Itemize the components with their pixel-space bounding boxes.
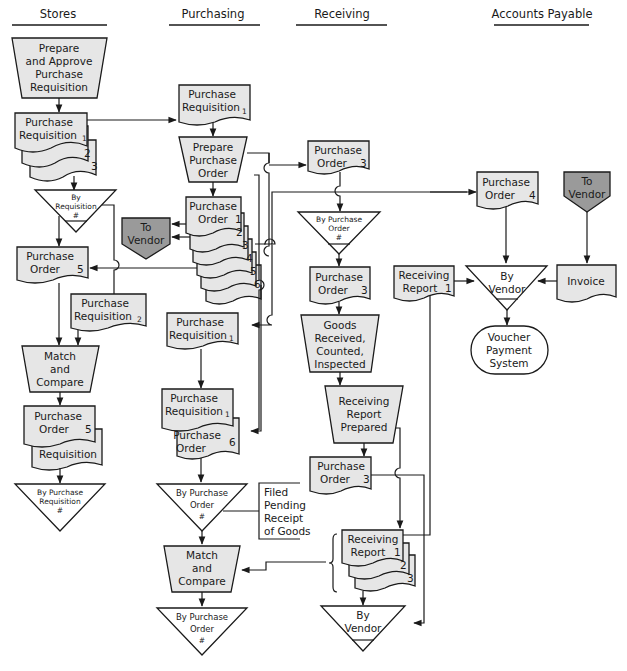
- document-purchase-requisition-1-top: Purchase Requisition 1: [179, 85, 250, 125]
- svg-text:System: System: [489, 357, 528, 369]
- svg-text:5: 5: [77, 263, 84, 275]
- file-by-purchase-order-pending: By Purchase Order #: [157, 484, 247, 531]
- svg-text:2: 2: [236, 226, 243, 238]
- process-goods-received-inspected: Goods Received, Counted, Inspected: [301, 315, 379, 372]
- document-purchase-order-4: Purchase Order 4: [477, 172, 538, 209]
- svg-text:Requisition: Requisition: [55, 202, 97, 211]
- svg-text:Vendor: Vendor: [128, 234, 166, 246]
- svg-text:Requisition: Requisition: [74, 310, 132, 322]
- svg-text:Order: Order: [485, 189, 516, 201]
- column-header-accounts-payable: Accounts Payable: [492, 7, 593, 25]
- svg-text:Requisition: Requisition: [165, 405, 223, 417]
- document-purchase-order-3-low: Purchase Order 3: [310, 457, 371, 494]
- svg-text:#: #: [199, 636, 205, 645]
- svg-text:#: #: [57, 506, 63, 515]
- svg-text:Goods: Goods: [323, 319, 356, 331]
- svg-text:Receiving: Receiving: [314, 7, 370, 21]
- svg-text:Match: Match: [44, 350, 76, 362]
- svg-text:Purchase: Purchase: [81, 297, 129, 309]
- annotation-filed-pending-receipt: Filed Pending Receipt of Goods: [259, 483, 311, 539]
- svg-text:To: To: [580, 175, 592, 187]
- svg-text:5: 5: [85, 423, 92, 435]
- svg-text:Requisition: Requisition: [19, 129, 77, 141]
- svg-text:5: 5: [250, 265, 257, 277]
- svg-text:Received,: Received,: [314, 332, 365, 344]
- svg-text:Purchase: Purchase: [35, 68, 83, 80]
- svg-text:Pending: Pending: [264, 499, 306, 511]
- svg-text:Prepare: Prepare: [39, 42, 79, 54]
- svg-text:1: 1: [225, 410, 230, 419]
- svg-text:By: By: [500, 270, 513, 282]
- svg-text:Inspected: Inspected: [314, 358, 365, 370]
- svg-text:Purchase: Purchase: [170, 392, 218, 404]
- svg-text:Purchase: Purchase: [34, 410, 82, 422]
- svg-text:1: 1: [235, 213, 242, 225]
- svg-text:Purchase: Purchase: [482, 176, 530, 188]
- svg-text:Purchase: Purchase: [26, 250, 74, 262]
- document-receiving-report-1-ap: Receiving Report 1: [394, 266, 454, 301]
- document-purchase-requisition-2: Purchase Requisition 2: [71, 294, 146, 331]
- svg-text:Order: Order: [318, 284, 349, 296]
- svg-text:Order: Order: [176, 442, 207, 454]
- svg-text:3: 3: [363, 473, 370, 485]
- svg-text:#: #: [199, 512, 205, 521]
- svg-text:Order: Order: [190, 500, 215, 510]
- svg-text:6: 6: [229, 436, 236, 448]
- svg-text:Vendor: Vendor: [345, 622, 383, 634]
- svg-text:4: 4: [529, 189, 536, 201]
- svg-text:and Approve: and Approve: [26, 55, 93, 67]
- document-purchase-requisition-1-2-3: Purchase Requisition 1 2 3: [15, 113, 98, 181]
- svg-text:1: 1: [229, 334, 234, 343]
- svg-text:3: 3: [242, 239, 249, 251]
- document-flowchart: Stores Purchasing Receiving Accounts Pay…: [0, 0, 627, 671]
- svg-text:Purchase: Purchase: [188, 88, 236, 100]
- process-match-compare-purchasing: Match and Compare: [164, 546, 240, 592]
- svg-text:Vendor: Vendor: [569, 188, 607, 200]
- svg-text:Requisition: Requisition: [39, 497, 81, 506]
- document-invoice: Invoice: [557, 265, 616, 302]
- file-by-purchase-order-receiving: By Purchase Order #: [298, 212, 380, 254]
- svg-text:Stores: Stores: [40, 7, 76, 21]
- svg-text:By Purchase: By Purchase: [37, 488, 83, 497]
- terminal-voucher-payment-system: Voucher Payment System: [471, 326, 548, 374]
- svg-text:of Goods: of Goods: [264, 525, 311, 537]
- svg-text:Order: Order: [317, 157, 348, 169]
- svg-text:1: 1: [394, 546, 401, 558]
- svg-text:Prepared: Prepared: [340, 421, 387, 433]
- file-by-purchase-order-final: By Purchase Order #: [157, 608, 247, 655]
- svg-text:Compare: Compare: [36, 376, 84, 388]
- svg-text:Purchase: Purchase: [25, 116, 73, 128]
- svg-text:2: 2: [400, 559, 407, 571]
- document-po5-requisition: Purchase Order 5 Requisition: [24, 406, 102, 470]
- svg-text:Requisition: Requisition: [39, 448, 97, 460]
- svg-text:By Purchase: By Purchase: [316, 215, 362, 224]
- svg-text:By: By: [71, 193, 81, 202]
- svg-text:Prepare: Prepare: [193, 141, 233, 153]
- process-prepare-purchase-order: Prepare Purchase Order: [179, 137, 247, 182]
- svg-text:By Purchase: By Purchase: [176, 612, 228, 622]
- svg-text:Purchase: Purchase: [317, 460, 365, 472]
- offpage-to-vendor-purchasing: To Vendor: [122, 218, 170, 259]
- svg-text:#: #: [73, 211, 79, 220]
- svg-text:Order: Order: [30, 263, 61, 275]
- svg-text:Order: Order: [328, 224, 350, 233]
- svg-text:Requisition: Requisition: [182, 101, 240, 113]
- document-receiving-report-stack: Receiving Report 1 2 3: [342, 530, 415, 591]
- offpage-to-vendor-ap: To Vendor: [564, 172, 610, 212]
- document-purchase-order-stack-1-6: Purchase Order 1 2 3 4 5 6: [186, 197, 261, 304]
- svg-text:Payment: Payment: [486, 344, 532, 356]
- svg-text:Vendor: Vendor: [489, 283, 527, 295]
- svg-text:Compare: Compare: [178, 575, 226, 587]
- svg-text:Report: Report: [351, 546, 386, 558]
- svg-text:Order: Order: [198, 213, 229, 225]
- svg-text:Invoice: Invoice: [567, 275, 605, 287]
- svg-text:By Purchase: By Purchase: [176, 488, 228, 498]
- process-prepare-approve-requisition: Prepare and Approve Purchase Requisition: [12, 38, 107, 98]
- column-header-receiving: Receiving: [296, 7, 387, 25]
- svg-text:Report: Report: [347, 408, 382, 420]
- svg-text:3: 3: [407, 572, 414, 584]
- svg-text:Receiving: Receiving: [339, 395, 390, 407]
- svg-text:Order: Order: [39, 423, 70, 435]
- file-by-vendor-ap: By Vendor: [466, 266, 547, 310]
- svg-text:Requisition: Requisition: [169, 329, 227, 341]
